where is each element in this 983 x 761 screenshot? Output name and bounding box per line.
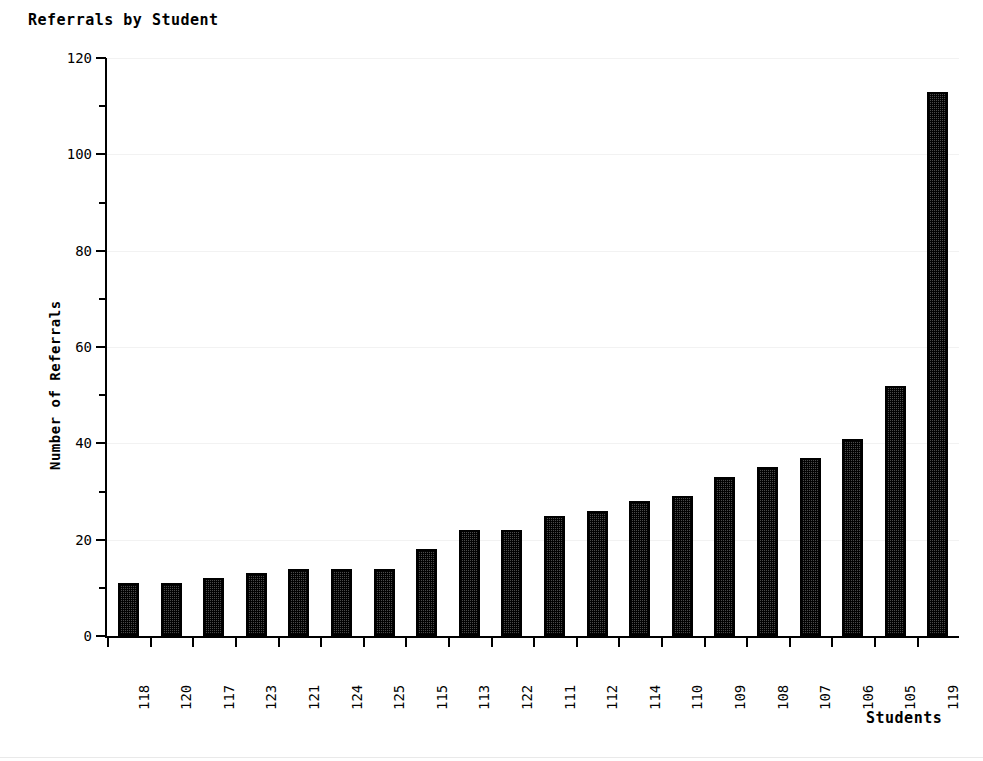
x-tick [150,638,152,647]
bar [714,477,735,636]
x-tick [874,638,876,647]
chart-title: Referrals by Student [28,11,219,29]
bar [544,516,565,636]
x-tick [533,638,535,647]
x-tick-label: 108 [775,650,791,710]
x-tick [618,638,620,647]
x-tick [107,638,109,647]
chart-figure: Referrals by Student Number of Referrals… [0,0,983,761]
gridline [107,58,959,59]
x-tick [235,638,237,647]
bar [331,569,352,636]
y-tick-major [96,250,106,252]
y-tick-minor [99,587,106,589]
gridline [107,347,959,348]
y-tick-major [96,442,106,444]
y-tick-major [96,539,106,541]
y-tick-major [96,635,106,637]
x-tick-label: 125 [391,650,407,710]
x-tick [661,638,663,647]
x-tick-label: 117 [221,650,237,710]
y-tick-major [96,57,106,59]
x-tick-label: 123 [263,650,279,710]
bar [629,501,650,636]
bar [842,439,863,636]
page-edge-artifact [0,757,983,758]
gridline [107,251,959,252]
bar [501,530,522,636]
gridline [107,154,959,155]
x-tick [320,638,322,647]
x-tick-label: 120 [178,650,194,710]
x-tick [789,638,791,647]
x-tick-label: 114 [647,650,663,710]
x-axis-title: Students [866,709,942,727]
bar [927,92,948,636]
x-tick [405,638,407,647]
bar [374,569,395,636]
y-tick-minor [99,202,106,204]
bar [800,458,821,636]
x-tick [831,638,833,647]
gridline [107,540,959,541]
bar [416,549,437,636]
y-tick-minor [99,394,106,396]
x-tick-label: 110 [689,650,705,710]
x-tick [704,638,706,647]
x-tick [448,638,450,647]
bar [587,511,608,636]
bar [118,583,139,636]
y-tick-major [96,346,106,348]
y-tick-minor [99,491,106,493]
bar [459,530,480,636]
bar [757,467,778,636]
plot-area: 020406080100120 118120117123121124125115… [105,58,959,638]
x-tick-label: 105 [902,650,918,710]
y-tick-label: 120 [67,51,92,65]
y-axis-line [105,58,107,638]
x-tick [576,638,578,647]
bar [246,573,267,636]
x-tick [192,638,194,647]
y-tick-label: 100 [67,147,92,161]
x-tick-label: 122 [519,650,535,710]
y-tick-label: 40 [75,436,92,450]
y-tick-label: 20 [75,533,92,547]
y-tick-major [96,153,106,155]
x-tick-label: 109 [732,650,748,710]
y-tick-label: 60 [75,340,92,354]
gridline [107,443,959,444]
x-tick-label: 119 [945,650,961,710]
x-tick-label: 124 [349,650,365,710]
x-tick-label: 118 [136,650,152,710]
bar [885,386,906,636]
x-tick-label: 115 [434,650,450,710]
x-tick [363,638,365,647]
x-tick-label: 107 [817,650,833,710]
y-tick-label: 80 [75,244,92,258]
x-tick [278,638,280,647]
bar [672,496,693,636]
x-tick [746,638,748,647]
y-tick-label: 0 [84,629,92,643]
bar [161,583,182,636]
x-tick-label: 112 [604,650,620,710]
x-tick-label: 106 [860,650,876,710]
y-tick-minor [99,298,106,300]
x-tick-label: 113 [476,650,492,710]
x-tick-label: 121 [306,650,322,710]
bar [288,569,309,636]
y-tick-minor [99,105,106,107]
x-tick [917,638,919,647]
x-tick-label: 111 [562,650,578,710]
x-tick [491,638,493,647]
bar [203,578,224,636]
y-axis-title: Number of Referrals [44,50,66,470]
